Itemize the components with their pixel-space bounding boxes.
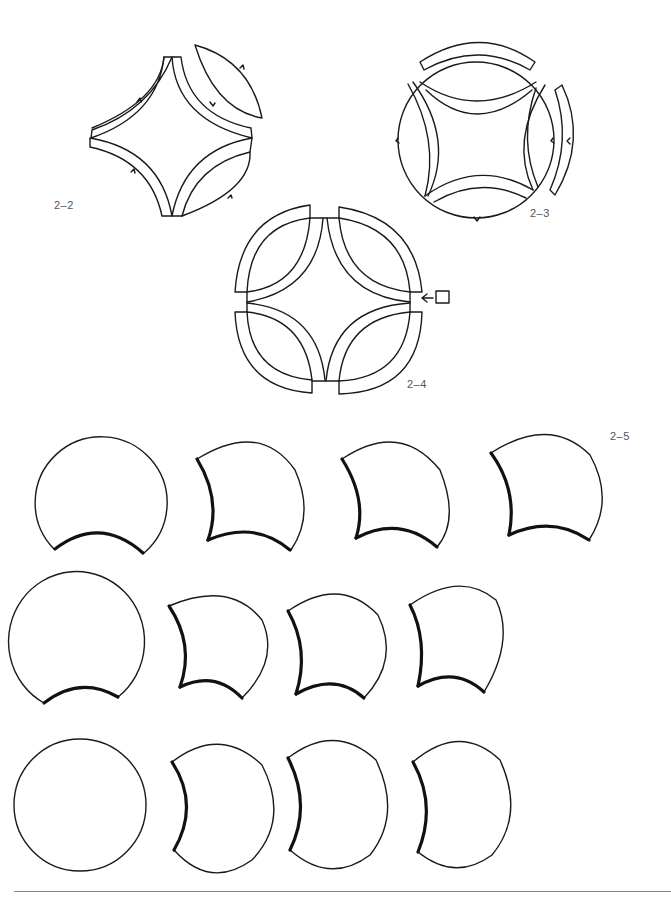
figure-2-3: [396, 43, 573, 222]
figure-label-2-2: 2–2: [54, 199, 74, 211]
quarter-top-left: [235, 205, 310, 292]
figure-label-2-4: 2–4: [407, 378, 427, 390]
wedge-bottom-right: [172, 138, 252, 216]
arrow-icon: [422, 294, 433, 302]
template-r1c4: [491, 434, 602, 540]
arc-band-top-lifted: [420, 43, 535, 71]
figure-2-2: [90, 45, 262, 216]
figure-2-4: [235, 205, 449, 394]
template-r2c1: [9, 572, 145, 703]
figure-label-2-5: 2–5: [610, 430, 630, 442]
square-marker-icon: [436, 291, 449, 303]
template-r1c2: [197, 442, 304, 550]
template-r1c3: [342, 442, 449, 547]
template-r2c4: [410, 586, 503, 692]
template-r1c1: [35, 437, 167, 553]
template-r3c4: [413, 741, 511, 867]
diagram-canvas: [0, 0, 671, 899]
figure-2-5-grid: [9, 434, 603, 872]
wedge-bottom-left: [90, 138, 172, 216]
template-r2c3: [288, 594, 386, 698]
footer-rule: [14, 891, 671, 892]
template-r3c3: [288, 740, 388, 868]
template-r3c1: [14, 739, 146, 871]
template-r3c2: [172, 744, 274, 873]
wedge-top-left: [91, 57, 172, 138]
template-r2c2: [169, 596, 268, 698]
figure-label-2-3: 2–3: [530, 207, 550, 219]
quarter-top-right: [339, 207, 422, 292]
